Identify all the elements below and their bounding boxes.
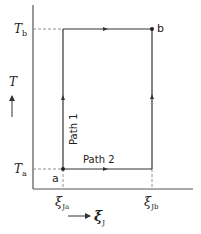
point-b	[150, 27, 154, 31]
path-1-label: Path 1	[68, 113, 79, 145]
path-2-right-arrow-icon	[103, 167, 108, 171]
y-axis-label: T	[9, 75, 18, 89]
point-a-label: a	[52, 172, 59, 185]
path-2-label: Path 2	[83, 154, 115, 165]
point-b-label: b	[157, 22, 164, 35]
xi-ja-label: ξJa	[55, 194, 69, 211]
path-1-right-arrow-icon	[103, 27, 108, 31]
x-axis-label: ξJ	[94, 208, 105, 227]
path-diagram: a b Path 2 Path 1 Tb Ta ξJa ξJb T ξJ	[0, 0, 201, 234]
ta-label: Ta	[14, 162, 27, 178]
path-1-up-arrow-icon	[61, 95, 65, 100]
path-2-up-arrow-icon	[150, 94, 154, 99]
tb-label: Tb	[14, 22, 27, 38]
xi-jb-label: ξJb	[144, 194, 159, 211]
point-a	[61, 167, 65, 171]
